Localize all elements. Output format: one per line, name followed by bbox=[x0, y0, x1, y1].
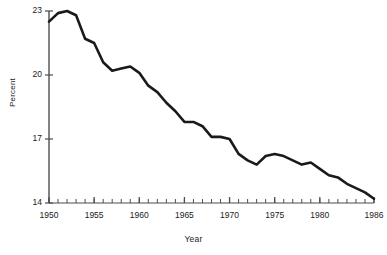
x-axis-tick-label: 1960 bbox=[119, 210, 159, 220]
x-axis-tick-label: 1965 bbox=[164, 210, 204, 220]
x-axis-tick-label: 1955 bbox=[74, 210, 114, 220]
y-axis-tick-label: 17 bbox=[20, 133, 42, 143]
line-chart: Percent Year 14172023 195019551960196519… bbox=[0, 0, 387, 255]
x-axis-title: Year bbox=[0, 234, 387, 244]
x-axis-tick-label: 1980 bbox=[300, 210, 340, 220]
x-axis-tick-label: 1970 bbox=[210, 210, 250, 220]
data-series-line bbox=[49, 11, 374, 199]
y-axis-tick-label: 20 bbox=[20, 69, 42, 79]
y-axis-tick-label: 23 bbox=[20, 5, 42, 15]
x-axis-tick-label: 1950 bbox=[29, 210, 69, 220]
x-axis-tick-label: 1986 bbox=[354, 210, 387, 220]
x-axis-tick-label: 1975 bbox=[255, 210, 295, 220]
y-axis-title: Percent bbox=[8, 63, 17, 123]
y-axis-tick-label: 14 bbox=[20, 197, 42, 207]
